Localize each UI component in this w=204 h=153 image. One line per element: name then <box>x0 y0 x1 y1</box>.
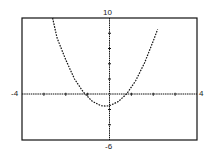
graph-canvas <box>0 0 204 153</box>
ymax-label: 10 <box>103 9 112 17</box>
parabola-curve <box>53 18 158 106</box>
ymin-label: -6 <box>105 143 112 151</box>
xmin-label: -4 <box>11 90 18 98</box>
xmax-label: 4 <box>199 90 203 98</box>
